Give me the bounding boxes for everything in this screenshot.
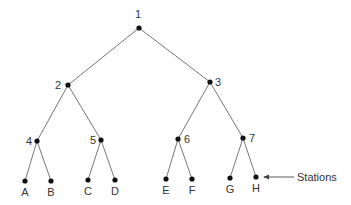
edge-3-6 [178,82,210,139]
node-label-B: B [47,186,54,198]
edge-1-2 [68,28,139,85]
node-H [253,174,258,179]
edge-7-G [230,138,243,178]
node-label-G: G [226,183,235,195]
edge-6-F [178,139,192,179]
node-F [189,176,194,181]
node-label-6: 6 [184,133,190,145]
node-4 [34,138,39,143]
edge-5-C [88,140,101,180]
node-6 [175,136,180,141]
node-label-2: 2 [55,79,61,91]
edge-1-3 [139,28,210,82]
edge-5-D [101,140,115,180]
node-3 [207,79,212,84]
node-5 [98,137,103,142]
stations-annotation: Stations [264,171,337,183]
tree-edges [25,28,256,181]
node-labels: 1234567ABCDEFGH [21,8,260,198]
node-label-4: 4 [26,135,32,147]
node-label-H: H [252,182,260,194]
node-label-A: A [21,186,29,198]
edge-4-A [25,141,37,181]
node-2 [65,82,70,87]
node-label-F: F [189,184,196,196]
node-label-1: 1 [135,8,141,20]
node-C [85,177,90,182]
node-1 [136,25,141,30]
tree-diagram: 1234567ABCDEFGH Stations [0,0,351,205]
edge-2-4 [37,85,68,141]
stations-label: Stations [297,171,337,183]
edge-4-B [37,141,51,181]
node-label-3: 3 [215,76,221,88]
edge-3-7 [210,82,243,138]
node-G [227,175,232,180]
node-B [48,178,53,183]
node-D [112,177,117,182]
node-label-5: 5 [90,134,96,146]
node-label-C: C [84,185,92,197]
node-A [22,178,27,183]
edge-2-5 [68,85,101,140]
node-label-7: 7 [249,132,255,144]
node-7 [240,135,245,140]
node-label-D: D [111,185,119,197]
node-label-E: E [162,184,169,196]
node-E [163,176,168,181]
edge-6-E [166,139,178,179]
